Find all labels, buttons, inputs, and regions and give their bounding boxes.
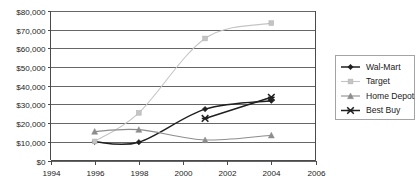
x-tick-label: 1998 <box>130 169 149 178</box>
data-point-target-1998 <box>136 110 141 115</box>
y-tick-label: $70,000 <box>16 27 46 36</box>
x-tick-label: 2006 <box>307 169 326 178</box>
x-tick-label: 2000 <box>174 169 193 178</box>
legend-label-home-depot: Home Depot <box>366 91 415 101</box>
y-tick-label: $20,000 <box>16 120 46 129</box>
line-chart-figure: $0$10,000$20,000$30,000$40,000$50,000$60… <box>0 0 419 188</box>
y-tick-label: $0 <box>36 158 46 167</box>
x-tick-label: 1994 <box>42 169 61 178</box>
x-tick-label: 2004 <box>262 169 281 178</box>
legend-label-best-buy: Best Buy <box>366 105 401 115</box>
x-tick-label: 1996 <box>86 169 105 178</box>
y-tick-label: $10,000 <box>16 139 46 148</box>
legend-label-wal-mart: Wal-Mart <box>366 62 401 72</box>
data-point-target-2001 <box>203 36 208 41</box>
y-tick-label: $40,000 <box>16 83 46 92</box>
y-tick-label: $80,000 <box>16 8 46 17</box>
x-tick-label: 2002 <box>218 169 237 178</box>
y-tick-label: $50,000 <box>16 64 46 73</box>
chart-legend: Wal-MartTargetHome DepotBest Buy <box>336 56 415 120</box>
legend-marker-target <box>348 79 353 84</box>
legend-label-target: Target <box>366 76 390 86</box>
data-point-target-1996 <box>92 139 97 144</box>
y-tick-label: $30,000 <box>16 101 46 110</box>
y-tick-label: $60,000 <box>16 45 46 54</box>
y-axis-tick-labels: $0$10,000$20,000$30,000$40,000$50,000$60… <box>16 8 50 167</box>
chart-plot-svg: $0$10,000$20,000$30,000$40,000$50,000$60… <box>0 0 419 188</box>
data-point-target-2004 <box>269 21 274 26</box>
